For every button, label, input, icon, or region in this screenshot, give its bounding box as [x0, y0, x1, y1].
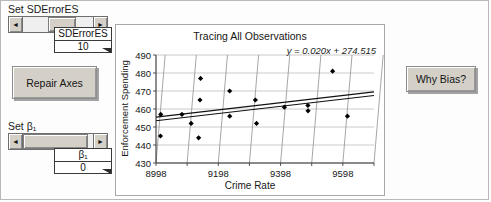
y-tick-label: 440 [135, 140, 151, 151]
data-point [227, 114, 232, 119]
slider-left-arrow-icon[interactable]: ◄ [9, 17, 23, 32]
x-tick-label: 8998 [145, 168, 166, 179]
x-tick-label: 9398 [270, 168, 291, 179]
beta1-slider-thumb[interactable] [23, 134, 88, 149]
y-tick-label: 430 [135, 158, 151, 169]
y-axis-label: Enforcement Spending [119, 39, 130, 179]
data-point [227, 88, 232, 93]
beta1-slider-label: Set β₁ [8, 120, 36, 132]
scatter-chart: Tracing All Observations y = 0.020x + 27… [115, 24, 385, 196]
y-tick-label: 450 [135, 122, 151, 133]
sderror-readout-value: 10 [55, 41, 111, 53]
chart-title: Tracing All Observations [116, 30, 384, 42]
beta1-readout: β₁ 0 [54, 148, 112, 174]
y-tick-label: 480 [135, 68, 151, 79]
regression-equation-annotation: y = 0.020x + 274.515 [287, 45, 376, 56]
data-point [189, 121, 194, 126]
data-point [196, 135, 201, 140]
x-tick-label: 9598 [332, 168, 353, 179]
slider-right-arrow-icon[interactable]: ► [93, 134, 107, 149]
beta1-readout-title: β₁ [55, 149, 111, 162]
data-point [345, 114, 350, 119]
repair-axes-button[interactable]: Repair Axes [12, 66, 97, 99]
sderror-slider-label: Set SDErrorES [8, 3, 79, 15]
beta1-slider-track[interactable] [23, 134, 93, 149]
data-point [197, 97, 202, 102]
x-tick-label: 9198 [208, 168, 229, 179]
y-tick-label: 460 [135, 104, 151, 115]
fit-upper [156, 92, 374, 117]
beta1-readout-value: 0 [55, 162, 111, 174]
y-tick-label: 490 [135, 50, 151, 61]
why-bias-button[interactable]: Why Bias? [406, 66, 476, 92]
application-window: Set SDErrorES ◄ ► SDErrorES 10 Repair Ax… [0, 0, 491, 202]
data-point [179, 112, 184, 117]
sderror-readout-title: SDErrorES [55, 28, 111, 41]
y-tick-label: 470 [135, 86, 151, 97]
slider-left-arrow-icon[interactable]: ◄ [9, 134, 23, 149]
data-point [253, 97, 258, 102]
fit-lower [156, 96, 374, 121]
x-axis-label: Crime Rate [116, 180, 384, 191]
data-point [254, 121, 259, 126]
data-point [198, 76, 203, 81]
sderror-readout: SDErrorES 10 [54, 27, 112, 53]
